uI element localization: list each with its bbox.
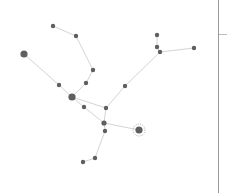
graph-edge bbox=[125, 52, 160, 86]
graph-node[interactable] bbox=[158, 50, 162, 54]
graph-node-selected[interactable] bbox=[135, 126, 142, 133]
graph-edge bbox=[72, 97, 106, 108]
graph-node[interactable] bbox=[20, 50, 27, 57]
graph-node[interactable] bbox=[68, 93, 75, 100]
graph-node[interactable] bbox=[104, 106, 108, 110]
edge-layer bbox=[24, 26, 194, 162]
graph-edge bbox=[76, 36, 93, 70]
graph-edge bbox=[104, 123, 139, 130]
graph-edge bbox=[24, 54, 59, 85]
graph-edge bbox=[95, 131, 105, 158]
graph-node[interactable] bbox=[101, 120, 106, 125]
graph-node[interactable] bbox=[51, 24, 55, 28]
graph-node[interactable] bbox=[155, 45, 159, 49]
graph-node[interactable] bbox=[192, 46, 196, 50]
graph-edge bbox=[106, 86, 125, 108]
graph-node[interactable] bbox=[155, 33, 159, 37]
graph-node[interactable] bbox=[103, 129, 107, 133]
graph-edge bbox=[160, 48, 194, 52]
graph-node[interactable] bbox=[123, 84, 127, 88]
panel-border-line bbox=[218, 0, 219, 193]
graph-node[interactable] bbox=[81, 160, 85, 164]
graph-edge bbox=[84, 107, 104, 123]
side-panel-divider[interactable] bbox=[218, 0, 227, 193]
graph-node[interactable] bbox=[57, 83, 61, 87]
graph-node[interactable] bbox=[93, 156, 97, 160]
panel-tick-mark bbox=[219, 34, 227, 35]
graph-edge bbox=[53, 26, 76, 36]
graph-node[interactable] bbox=[84, 81, 88, 85]
graph-node[interactable] bbox=[74, 34, 78, 38]
graph-node[interactable] bbox=[91, 68, 95, 72]
network-graph[interactable] bbox=[0, 0, 227, 193]
graph-edge bbox=[86, 70, 93, 83]
node-layer bbox=[20, 24, 196, 164]
graph-node[interactable] bbox=[82, 105, 86, 109]
